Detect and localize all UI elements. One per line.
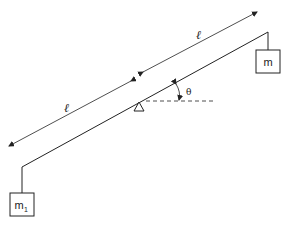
lever-diagram: m m 1 θ ℓ ℓ <box>0 0 288 230</box>
length-label-left: ℓ <box>64 101 69 115</box>
length-arrow-left <box>9 81 131 146</box>
length-arrow-right <box>143 12 257 72</box>
mass-m1-subscript: 1 <box>24 206 28 213</box>
pivot-triangle-icon <box>134 102 144 111</box>
angle-arc <box>176 84 180 100</box>
beam <box>22 32 268 167</box>
angle-theta-label: θ <box>186 87 191 97</box>
mass-m-label: m <box>263 56 272 68</box>
length-label-right: ℓ <box>196 28 201 42</box>
mass-m1-label: m <box>14 199 23 211</box>
